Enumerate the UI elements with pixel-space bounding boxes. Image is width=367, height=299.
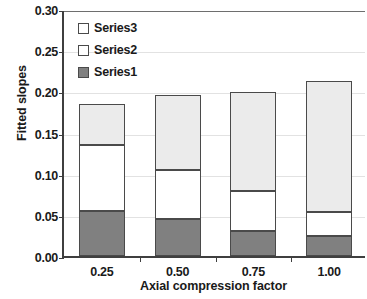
x-tick-label: 0.75	[218, 265, 288, 279]
bar-stack[interactable]	[306, 9, 352, 256]
x-tick-label: 1.00	[294, 265, 364, 279]
y-tick-mark	[59, 11, 64, 12]
x-tick-mark	[140, 256, 141, 262]
x-tick-label: 0.50	[143, 265, 213, 279]
y-tick-label: 0.25	[12, 45, 58, 59]
y-tick-label: 0.05	[12, 210, 58, 224]
y-tick-label: 0.30	[12, 4, 58, 18]
y-tick-mark	[59, 135, 64, 136]
legend-swatch-icon	[78, 45, 89, 56]
y-tick-mark	[59, 176, 64, 177]
bar-segment-series2[interactable]	[155, 170, 201, 219]
bar-segment-series3[interactable]	[79, 104, 125, 145]
bar-segment-series2[interactable]	[230, 191, 276, 231]
bar-segment-series1[interactable]	[155, 219, 201, 256]
legend-swatch-icon	[78, 67, 89, 78]
y-tick-mark	[59, 93, 64, 94]
bar-segment-series1[interactable]	[79, 211, 125, 256]
legend-item-label: Series1	[94, 65, 137, 79]
x-tick-mark	[291, 256, 292, 262]
chart-legend: Series3Series2Series1	[78, 17, 137, 83]
y-tick-mark	[59, 217, 64, 218]
legend-item-series2[interactable]: Series2	[78, 39, 137, 61]
y-tick-label: 0.00	[12, 251, 58, 265]
legend-swatch-icon	[78, 23, 89, 34]
bar-segment-series3[interactable]	[230, 92, 276, 191]
x-axis-title: Axial compression factor	[60, 279, 367, 293]
y-tick-label: 0.10	[12, 169, 58, 183]
bar-segment-series2[interactable]	[79, 145, 125, 211]
x-tick-label: 0.25	[67, 265, 137, 279]
bar-stack[interactable]	[155, 9, 201, 256]
bar-segment-series1[interactable]	[306, 236, 352, 256]
y-tick-mark	[59, 52, 64, 53]
y-tick-label: 0.15	[12, 128, 58, 142]
legend-item-series3[interactable]: Series3	[78, 17, 137, 39]
stacked-bar-chart: Fitted slopes 0.000.050.100.150.200.250.…	[0, 0, 367, 299]
y-tick-label: 0.20	[12, 86, 58, 100]
legend-item-label: Series3	[94, 21, 137, 35]
y-tick-mark	[59, 258, 64, 259]
bar-segment-series3[interactable]	[306, 81, 352, 213]
legend-item-series1[interactable]: Series1	[78, 61, 137, 83]
bar-segment-series2[interactable]	[306, 212, 352, 236]
legend-item-label: Series2	[94, 43, 137, 57]
bar-segment-series3[interactable]	[155, 95, 201, 169]
bar-segment-series1[interactable]	[230, 231, 276, 256]
x-tick-mark	[216, 256, 217, 262]
bar-stack[interactable]	[230, 9, 276, 256]
